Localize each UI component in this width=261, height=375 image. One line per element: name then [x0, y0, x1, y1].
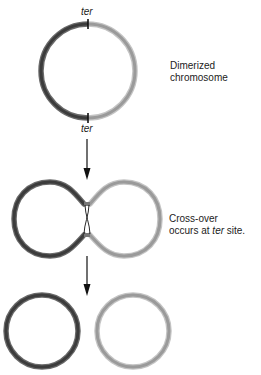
dimerized-caption-line2: chromosome	[170, 72, 228, 84]
diagram-graphics	[0, 0, 261, 375]
crossover-caption-ter: ter	[212, 225, 224, 236]
crossover-caption: Cross-over occurs at ter site.	[169, 213, 245, 237]
crossover-caption-post: site.	[224, 225, 245, 236]
chromosome-dimer-resolution-diagram: ter ter Dimerized chromosome Cross-over …	[0, 0, 261, 375]
resolved-chromosome-dark	[6, 295, 78, 367]
crossover-strand-2	[84, 205, 89, 234]
dimerized-chromosome	[41, 19, 135, 123]
crossover-figure-eight	[14, 182, 160, 256]
crossover-strand-1	[85, 205, 90, 234]
ter-label-top: ter	[81, 6, 93, 17]
arrow-down-icon	[84, 139, 91, 180]
dimerized-caption: Dimerized chromosome	[170, 60, 228, 84]
crossover-caption-pre: occurs at	[169, 225, 212, 236]
crossover-caption-line2: occurs at ter site.	[169, 225, 245, 237]
crossover-caption-line1: Cross-over	[169, 213, 245, 225]
resolved-chromosome-light	[97, 295, 169, 367]
arrow-down-icon	[84, 256, 91, 296]
dimerized-caption-line1: Dimerized	[170, 60, 228, 72]
ter-label-bottom: ter	[81, 123, 93, 134]
